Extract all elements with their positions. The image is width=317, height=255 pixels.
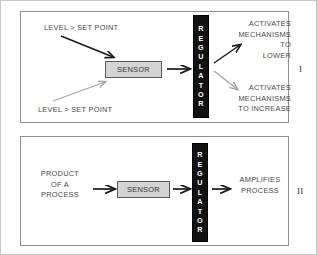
regulator-letter: A xyxy=(197,197,202,206)
panel-one-input-label-bottom: LEVEL > SET POINT xyxy=(38,105,150,116)
panel-one-regulator-box[interactable]: R E G U L A T O R xyxy=(193,15,209,118)
panel-one-output-label-bottom: ACTIVATES MECHANISMS TO INCREASE xyxy=(219,83,291,115)
panel-one-roman-numeral: I xyxy=(299,64,302,74)
feedback-diagram: LEVEL > SET POINT LEVEL > SET POINT SENS… xyxy=(0,0,317,255)
panel-two-output-label: AMPLIFIES PROCESS xyxy=(230,175,290,196)
regulator-letter: R xyxy=(197,225,202,234)
panel-two-regulator-box[interactable]: R E G U L A T O R xyxy=(192,143,208,242)
regulator-letter: O xyxy=(198,90,204,99)
panel-one-input-label-top: LEVEL > SET POINT xyxy=(44,23,154,34)
regulator-letter: O xyxy=(197,216,203,225)
regulator-letter: E xyxy=(199,34,204,43)
panel-two-roman-numeral: II xyxy=(297,186,304,196)
regulator-letter: T xyxy=(198,207,203,216)
panel-one-output-label-top: ACTIVATES MECHANISMS TO LOWER xyxy=(223,19,291,61)
regulator-letter: E xyxy=(198,160,203,169)
regulator-letter: T xyxy=(199,81,204,90)
regulator-letter: L xyxy=(199,62,204,71)
panel-two-input-label: PRODUCT OF A PROCESS xyxy=(27,169,93,201)
regulator-letter: G xyxy=(198,43,204,52)
regulator-letter: G xyxy=(197,169,203,178)
regulator-letter: A xyxy=(198,71,203,80)
panel-two-sensor-box[interactable]: SENSOR xyxy=(117,181,170,198)
regulator-letter: R xyxy=(198,99,203,108)
regulator-letter: U xyxy=(198,52,203,61)
regulator-letter: L xyxy=(198,188,203,197)
panel-one-sensor-box[interactable]: SENSOR xyxy=(105,61,162,78)
regulator-letter: R xyxy=(197,150,202,159)
regulator-letter: U xyxy=(197,178,202,187)
regulator-letter: R xyxy=(198,24,203,33)
